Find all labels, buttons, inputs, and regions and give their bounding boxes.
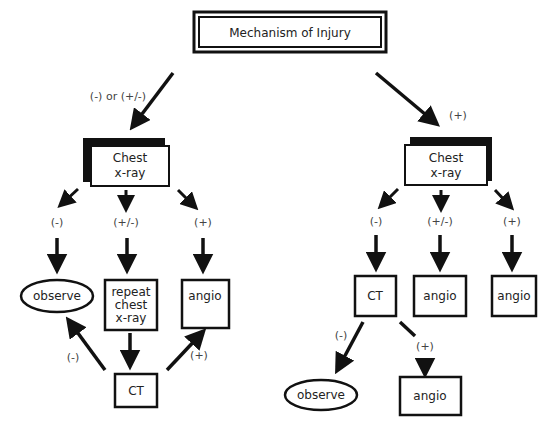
- right-angio-equivocal-node: angio: [414, 276, 466, 316]
- left-ct-node: CT: [115, 374, 157, 407]
- right-cxr-line-1: Chest: [429, 151, 464, 165]
- left-chest-xray-node: Chest x-ray: [83, 138, 169, 186]
- left-angio-node: angio: [182, 280, 229, 328]
- left-ct-label-neg: (-): [67, 351, 80, 364]
- right-label-equivocal: (+/-): [427, 215, 452, 228]
- right-observe-label: observe: [297, 388, 345, 402]
- left-repeat-line-1: repeat: [111, 285, 150, 299]
- left-observe-node: observe: [21, 280, 93, 312]
- left-label-pos: (+): [194, 216, 212, 229]
- right-angio-equivocal-label: angio: [423, 289, 456, 303]
- right-down-arrows: [376, 235, 512, 262]
- left-label-neg: (-): [51, 216, 64, 229]
- right-angio-pos-node: angio: [492, 276, 536, 316]
- left-repeat-line-2: chest: [115, 298, 148, 312]
- edge-root-right: (+): [376, 73, 467, 122]
- right-label-neg: (-): [370, 215, 383, 228]
- left-cxr-line-2: x-ray: [115, 166, 146, 180]
- right-cxr-out-arrows: [384, 189, 508, 204]
- flowchart-canvas: Mechanism of Injury (-) or (+/-) (+) Che…: [0, 0, 556, 431]
- left-angio-label: angio: [188, 289, 221, 303]
- root-node: Mechanism of Injury: [194, 12, 386, 52]
- left-observe-label: observe: [33, 289, 81, 303]
- left-ct-label-pos: (+): [190, 349, 208, 362]
- right-ct-label-pos: (+): [416, 340, 434, 353]
- right-angio-pos-label: angio: [497, 289, 530, 303]
- left-repeat-cxr-node: repeat chest x-ray: [105, 280, 157, 330]
- right-angio-from-ct-label: angio: [413, 389, 446, 403]
- right-ct-label-neg: (-): [335, 329, 348, 342]
- right-ct-out-arrows: [340, 322, 425, 368]
- left-label-equivocal: (+/-): [113, 216, 138, 229]
- right-ct-label: CT: [367, 289, 383, 303]
- edge-label-right: (+): [449, 109, 467, 122]
- right-cxr-line-2: x-ray: [431, 166, 462, 180]
- right-label-pos: (+): [503, 215, 521, 228]
- right-observe-node: observe: [285, 380, 357, 410]
- edge-label-left: (-) or (+/-): [90, 90, 146, 103]
- left-cxr-line-1: Chest: [113, 151, 148, 165]
- left-down-arrows: [57, 238, 203, 264]
- edge-root-left: (-) or (+/-): [90, 73, 173, 122]
- root-label: Mechanism of Injury: [229, 26, 351, 40]
- right-chest-xray-node: Chest x-ray: [405, 137, 492, 185]
- right-angio-from-ct-node: angio: [400, 377, 461, 415]
- right-ct-node: CT: [355, 276, 396, 316]
- left-ct-out-arrows: [72, 325, 199, 370]
- left-cxr-out-arrows: [64, 189, 192, 204]
- left-ct-label: CT: [128, 384, 144, 398]
- left-repeat-line-3: x-ray: [116, 311, 147, 325]
